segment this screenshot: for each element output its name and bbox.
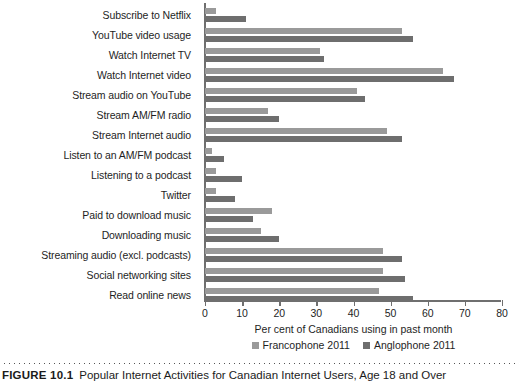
bar-row xyxy=(205,45,505,65)
bar-row xyxy=(205,225,505,245)
bar-anglophone xyxy=(205,236,279,242)
legend-item: Anglophone 2011 xyxy=(363,339,456,351)
bar-row xyxy=(205,125,505,145)
bar-francophone xyxy=(205,268,383,274)
x-tick-label: 80 xyxy=(496,307,508,319)
category-label: Subscribe to Netflix xyxy=(0,5,198,25)
x-tick xyxy=(205,300,206,306)
x-tick-label: 30 xyxy=(311,307,323,319)
bar-anglophone xyxy=(205,16,246,22)
legend-label: Francophone 2011 xyxy=(263,339,350,351)
category-axis-labels: Subscribe to NetflixYouTube video usageW… xyxy=(0,5,198,299)
x-tick-label: 60 xyxy=(422,307,434,319)
bar-row xyxy=(205,285,505,305)
legend-label: Anglophone 2011 xyxy=(374,339,456,351)
bar-anglophone xyxy=(205,36,413,42)
bar-francophone xyxy=(205,8,216,14)
bar-francophone xyxy=(205,248,383,254)
bar-francophone xyxy=(205,208,272,214)
bar-francophone xyxy=(205,28,402,34)
bar-francophone xyxy=(205,188,216,194)
x-tick-label: 50 xyxy=(385,307,397,319)
bar-anglophone xyxy=(205,176,242,182)
category-label: Stream AM/FM radio xyxy=(0,105,198,125)
x-tick xyxy=(391,300,392,306)
category-label: Watch Internet video xyxy=(0,65,198,85)
bar-anglophone xyxy=(205,76,454,82)
bar-francophone xyxy=(205,148,212,154)
bar-row xyxy=(205,65,505,85)
bar-row xyxy=(205,85,505,105)
bars-container xyxy=(205,5,505,299)
legend-swatch-icon xyxy=(363,342,370,349)
bar-francophone xyxy=(205,88,357,94)
bar-anglophone xyxy=(205,196,235,202)
category-label: Downloading music xyxy=(0,225,198,245)
category-label: Social networking sites xyxy=(0,265,198,285)
bar-row xyxy=(205,5,505,25)
legend-item: Francophone 2011 xyxy=(252,339,350,351)
figure-number: FIGURE 10.1 xyxy=(2,369,73,381)
bar-anglophone xyxy=(205,96,365,102)
bar-anglophone xyxy=(205,256,402,262)
figure-container: Subscribe to NetflixYouTube video usageW… xyxy=(0,0,520,388)
x-tick xyxy=(502,300,503,306)
x-tick-label: 20 xyxy=(273,307,285,319)
x-axis-line xyxy=(204,300,501,302)
bar-row xyxy=(205,205,505,225)
figure-caption: FIGURE 10.1Popular Internet Activities f… xyxy=(2,369,518,381)
x-tick-label: 40 xyxy=(348,307,360,319)
bar-francophone xyxy=(205,68,443,74)
caption-divider xyxy=(2,361,518,364)
bar-francophone xyxy=(205,228,261,234)
category-label: Twitter xyxy=(0,185,198,205)
category-label: Stream audio on YouTube xyxy=(0,85,198,105)
x-axis-title: Per cent of Canadians using in past mont… xyxy=(205,323,502,335)
bar-anglophone xyxy=(205,136,402,142)
bar-francophone xyxy=(205,48,320,54)
x-tick xyxy=(465,300,466,306)
bar-anglophone xyxy=(205,156,224,162)
bar-francophone xyxy=(205,168,216,174)
x-tick xyxy=(242,300,243,306)
chart-legend: Francophone 2011Anglophone 2011 xyxy=(205,339,502,351)
x-tick xyxy=(279,300,280,306)
category-label: Streaming audio (excl. podcasts) xyxy=(0,245,198,265)
x-tick xyxy=(354,300,355,306)
bar-row xyxy=(205,25,505,45)
bar-anglophone xyxy=(205,56,324,62)
category-label: Stream Internet audio xyxy=(0,125,198,145)
category-label: Listen to an AM/FM podcast xyxy=(0,145,198,165)
bar-row xyxy=(205,185,505,205)
bar-francophone xyxy=(205,128,387,134)
category-label: Paid to download music xyxy=(0,205,198,225)
bar-francophone xyxy=(205,108,268,114)
x-tick xyxy=(316,300,317,306)
x-tick-label: 70 xyxy=(459,307,471,319)
category-label: Watch Internet TV xyxy=(0,45,198,65)
x-tick-label: 0 xyxy=(202,307,208,319)
chart-plot-area: Subscribe to NetflixYouTube video usageW… xyxy=(0,0,520,300)
bar-row xyxy=(205,105,505,125)
bar-row xyxy=(205,265,505,285)
figure-caption-text: Popular Internet Activities for Canadian… xyxy=(79,369,446,381)
bar-francophone xyxy=(205,288,379,294)
legend-swatch-icon xyxy=(252,342,259,349)
category-label: Listening to a podcast xyxy=(0,165,198,185)
category-label: Read online news xyxy=(0,285,198,305)
x-tick-label: 10 xyxy=(236,307,248,319)
x-tick xyxy=(428,300,429,306)
bar-anglophone xyxy=(205,276,405,282)
category-label: YouTube video usage xyxy=(0,25,198,45)
bar-anglophone xyxy=(205,116,279,122)
bar-row xyxy=(205,165,505,185)
bar-row xyxy=(205,245,505,265)
bar-anglophone xyxy=(205,216,253,222)
bar-row xyxy=(205,145,505,165)
